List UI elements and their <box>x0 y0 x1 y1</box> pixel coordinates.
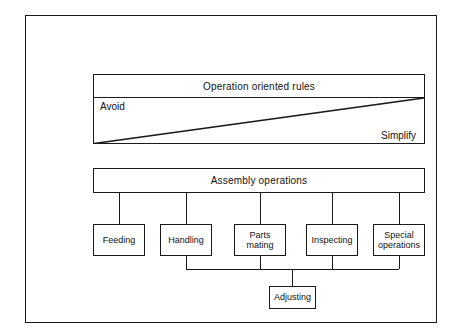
connector-inspecting-to-bus <box>332 256 333 269</box>
diagram-screenshot: Operation oriented rules Avoid Simplify … <box>0 0 462 335</box>
avoid-to-simplify-diagonal-icon <box>94 98 424 144</box>
connector-assembly-to-inspecting <box>332 193 333 224</box>
connector-special-to-bus <box>399 256 400 269</box>
operation-box-feeding: Feeding <box>93 224 145 256</box>
connector-assembly-to-special <box>399 193 400 224</box>
connector-assembly-to-parts <box>260 193 261 224</box>
assembly-operations-box: Assembly operations <box>93 168 425 193</box>
rules-label-avoid: Avoid <box>100 101 125 112</box>
operation-oriented-rules-panel: Operation oriented rules Avoid Simplify <box>93 74 425 144</box>
connector-parts-to-bus <box>260 256 261 269</box>
operation-box-handling: Handling <box>160 224 212 256</box>
connector-assembly-to-handling <box>186 193 187 224</box>
connector-handling-to-bus <box>186 256 187 269</box>
operation-box-adjusting: Adjusting <box>269 286 316 309</box>
diagram-outer-frame: Operation oriented rules Avoid Simplify … <box>25 15 437 323</box>
rules-label-simplify: Simplify <box>381 130 416 141</box>
connector-assembly-to-feeding <box>119 193 120 224</box>
operation-box-inspecting: Inspecting <box>306 224 358 256</box>
operation-box-parts-mating: Parts mating <box>234 224 286 256</box>
connector-bus-to-adjusting <box>292 269 293 286</box>
rules-gradient-body: Avoid Simplify <box>94 98 424 144</box>
operation-oriented-rules-title: Operation oriented rules <box>94 75 424 98</box>
operation-box-special-operations: Special operations <box>373 224 425 256</box>
